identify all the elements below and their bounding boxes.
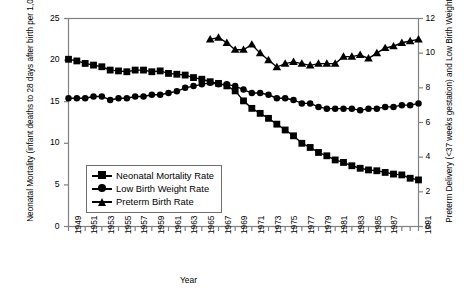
legend-item-low-birth-weight: Low Birth Weight Rate: [92, 182, 214, 195]
legend-label: Low Birth Weight Rate: [116, 183, 209, 194]
x-axis-tick-label: 1973: [273, 215, 283, 233]
legend-item-preterm-birth: Preterm Birth Rate: [92, 195, 214, 208]
x-axis-tick-label: 1987: [389, 215, 399, 233]
y-axis-left-tick-label: 10: [38, 137, 60, 147]
data-series: [65, 33, 423, 183]
x-axis-tick-label: 1955: [123, 215, 133, 233]
x-axis-tick-label: 1951: [89, 215, 99, 233]
x-axis-tick-label: 1949: [73, 215, 83, 233]
y-axis-right-tick-label: 10: [426, 47, 448, 57]
legend-item-neonatal-mortality: Neonatal Mortality Rate: [92, 169, 214, 182]
y-axis-left-tick-label: 5: [38, 179, 60, 189]
y-axis-right-tick-label: 8: [426, 82, 448, 92]
x-axis-tick-label: 1959: [156, 215, 166, 233]
x-axis-tick-label: 1979: [323, 215, 333, 233]
y-axis-left-title: Neonatal Mortality (infant deaths to 28 …: [26, 12, 36, 222]
y-axis-right-tick-label: 12: [426, 13, 448, 23]
x-axis-tick-label: 1971: [256, 215, 266, 233]
triangle-marker-icon: [92, 196, 112, 207]
y-axis-right-tick-label: 2: [426, 186, 448, 196]
x-axis-tick-label: 1981: [339, 215, 349, 233]
x-axis-tick-label: 1985: [373, 215, 383, 233]
square-marker-icon: [92, 170, 112, 181]
legend-label: Neonatal Mortality Rate: [116, 170, 214, 181]
chart-figure: Neonatal Mortality (infant deaths to 28 …: [0, 0, 476, 291]
y-axis-right-tick-label: 6: [426, 117, 448, 127]
y-axis-left-tick-label: 15: [38, 96, 60, 106]
y-axis-left-tick-label: 20: [38, 54, 60, 64]
x-axis-tick-label: 1957: [139, 215, 149, 233]
x-axis-tick-label: 1991: [423, 215, 433, 233]
chart-legend: Neonatal Mortality Rate Low Birth Weight…: [86, 165, 222, 213]
x-axis-tick-label: 1969: [239, 215, 249, 233]
legend-label: Preterm Birth Rate: [116, 196, 194, 207]
plot-area: [0, 0, 476, 291]
circle-marker-icon: [92, 183, 112, 194]
x-axis-tick-label: 1977: [306, 215, 316, 233]
y-axis-right-tick-label: 4: [426, 151, 448, 161]
x-axis-title: Year: [180, 276, 197, 286]
y-axis-left-tick-label: 0: [38, 221, 60, 231]
x-axis-tick-label: 1963: [189, 215, 199, 233]
x-axis-tick-label: 1953: [106, 215, 116, 233]
x-axis-tick-label: 1961: [173, 215, 183, 233]
y-axis-left-tick-label: 25: [38, 13, 60, 23]
x-axis-tick-label: 1965: [206, 215, 216, 233]
x-axis-tick-label: 1967: [223, 215, 233, 233]
x-axis-tick-label: 1983: [356, 215, 366, 233]
x-axis-tick-label: 1975: [289, 215, 299, 233]
